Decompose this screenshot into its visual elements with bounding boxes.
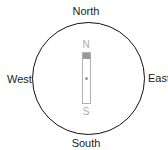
needle-pivot-icon [85, 77, 88, 80]
direction-label-north: North [0, 5, 168, 17]
direction-label-west: West [7, 73, 32, 85]
needle-north-label: N [80, 40, 92, 50]
direction-label-east: East [148, 72, 168, 84]
needle-south-label: S [80, 107, 92, 117]
needle-north-cap [83, 53, 90, 59]
compass-widget: North West East South N S [0, 0, 168, 150]
compass-needle-icon [82, 52, 91, 104]
direction-label-south: South [0, 137, 168, 149]
